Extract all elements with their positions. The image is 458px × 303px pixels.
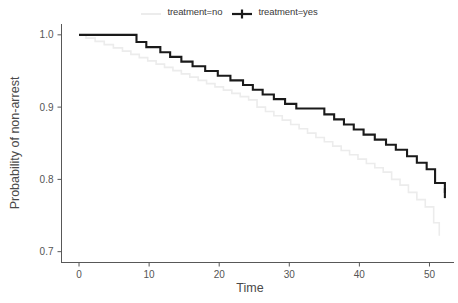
x-tick-label: 50 <box>424 269 436 280</box>
y-axis-ticks: 0.70.80.91.0 <box>40 29 62 257</box>
x-axis-ticks: 01020304050 <box>76 263 435 280</box>
y-tick-label: 0.8 <box>40 174 54 185</box>
plot-panel <box>61 24 454 262</box>
x-tick-label: 30 <box>284 269 296 280</box>
y-axis-title: Probability of non-arrest <box>8 76 22 209</box>
x-tick-label: 40 <box>354 269 366 280</box>
x-tick-label: 0 <box>76 269 82 280</box>
y-tick-label: 1.0 <box>40 29 54 40</box>
chart-canvas: 0.70.80.91.0 01020304050 Time Probabilit… <box>0 0 458 303</box>
x-axis-title: Time <box>236 281 263 295</box>
y-tick-label: 0.7 <box>40 246 54 257</box>
kaplan-meier-chart: treatment=no treatment=yes 0.70.80.91.0 … <box>0 0 458 303</box>
x-tick-label: 20 <box>214 269 226 280</box>
y-tick-label: 0.9 <box>40 102 54 113</box>
x-tick-label: 10 <box>144 269 156 280</box>
